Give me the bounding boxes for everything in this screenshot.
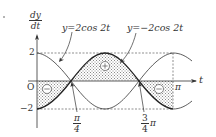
tick-y-neg: −2 — [20, 103, 33, 113]
y-axis-label-num: dy — [29, 10, 42, 21]
tick-x-3pi-quarter-den: 4 — [141, 124, 149, 134]
curve-neg-2cos2t-ext — [173, 101, 192, 109]
curve-label-2cos2t: y=2cos 2t — [62, 22, 110, 33]
tick-x-3pi-quarter: 3 4 — [141, 113, 149, 134]
tick-x-3pi-quarter-num: 3 — [141, 113, 149, 124]
origin-label: O — [27, 82, 34, 92]
y-axis-label-den: dt — [30, 21, 41, 31]
leader-2cos2t — [60, 32, 72, 61]
tick-x-pi: π — [175, 82, 181, 92]
tick-x-pi-quarter-num: π — [73, 113, 81, 124]
stray-dot — [3, 16, 5, 18]
tick-x-3pi-quarter-suffix: π — [150, 118, 156, 128]
leader-3pi-quarter — [140, 84, 145, 112]
leader-2cos2t-arrow-icon — [59, 58, 64, 63]
tick-y-pos: 2 — [29, 47, 35, 57]
curve-label-neg-2cos2t: y=−2cos 2t — [127, 22, 183, 33]
tick-x-pi-quarter-den: 4 — [73, 124, 81, 134]
shaded-region-minus-left — [37, 81, 71, 109]
leader-neg-2cos2t — [121, 33, 136, 62]
tick-x-pi-quarter: π 4 — [73, 113, 81, 134]
x-axis-label: t — [199, 74, 203, 85]
y-axis-label: dy dt — [29, 10, 42, 31]
